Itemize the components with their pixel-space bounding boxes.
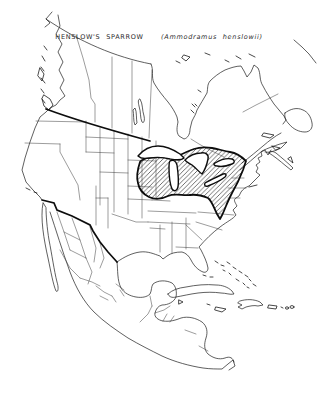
- anticosti-island: [262, 133, 274, 138]
- jamaica: [215, 307, 226, 312]
- species-scientific-name: (Ammodramus henslowii): [161, 33, 263, 41]
- cuba: [168, 285, 234, 298]
- northeast-corner-coast: [294, 40, 316, 63]
- us-mexico-border: [42, 200, 117, 262]
- map-title: HENSLOW'S SPARROW (Ammodramus henslowii): [0, 33, 318, 41]
- nova-scotia: [269, 152, 293, 171]
- newfoundland: [285, 109, 312, 132]
- lake-michigan: [169, 160, 178, 191]
- lake-manitoba: [133, 108, 137, 125]
- caribbean-islands: [168, 261, 294, 312]
- florida-keys: [203, 275, 213, 277]
- north-america-map: [0, 0, 318, 399]
- species-common-name: HENSLOW'S SPARROW: [55, 33, 143, 41]
- baja-california: [42, 203, 58, 291]
- long-island: [249, 185, 257, 187]
- vancouver-island: [42, 95, 53, 110]
- st-lawrence-and-maritimes: [240, 109, 312, 170]
- pacific-coastline: [22, 15, 65, 200]
- bahamas: [207, 261, 256, 305]
- international-borders: [42, 109, 150, 262]
- range-map-figure: HENSLOW'S SPARROW (Ammodramus henslowii): [0, 0, 318, 399]
- mexico-central-america: [42, 203, 235, 370]
- puerto-rico: [268, 305, 277, 309]
- canada-province-boundaries: [76, 35, 278, 157]
- lake-winnipeg: [138, 99, 144, 123]
- hispaniola: [238, 300, 263, 309]
- lake-superior: [138, 146, 184, 160]
